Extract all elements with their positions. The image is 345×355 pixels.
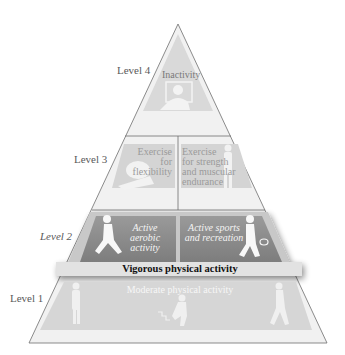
aerobic-activity-text: Active aerobic activity [116,223,174,253]
level-4-label: Level 4 [117,64,150,76]
sports-recreation-text: Active sports and recreation [184,223,244,243]
pyramid-graphic [0,0,345,355]
flexibility-text: Exercise for flexibility [126,147,172,177]
moderate-activity-text: Moderate physical activity [80,285,280,295]
level-1-label: Level 1 [10,292,43,304]
vigorous-activity-band: Vigorous physical activity [60,264,300,274]
activity-pyramid: Level 4 Level 3 Level 2 Level 1 Inactivi… [0,0,345,355]
level-2-label: Level 2 [40,230,72,242]
strength-endurance-text: Exercise for strength and muscular endur… [182,147,236,187]
inactivity-text: Inactivity [162,70,200,80]
level-3-label: Level 3 [74,153,107,165]
